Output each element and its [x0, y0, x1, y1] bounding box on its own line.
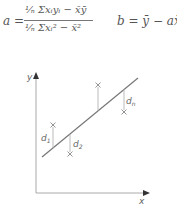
cross-marker-icon [51, 123, 56, 128]
cross-marker-icon [122, 110, 127, 115]
data-point-2 [68, 134, 73, 157]
cross-marker-icon [96, 83, 101, 88]
y-axis-arrow-icon [33, 72, 39, 79]
y-axis [33, 72, 39, 193]
y-axis-label: y [26, 72, 33, 82]
regression-diagram: y x d1 d2 dn [0, 0, 177, 204]
data-point-3 [96, 83, 101, 112]
residual-label-dn: dn [126, 96, 136, 107]
residual-label-d1: d1 [41, 133, 51, 144]
residual-label-d2: d2 [73, 139, 83, 150]
x-axis [36, 190, 150, 196]
data-point-1 [51, 123, 56, 149]
x-axis-label: x [138, 196, 145, 204]
cross-marker-icon [68, 152, 73, 157]
